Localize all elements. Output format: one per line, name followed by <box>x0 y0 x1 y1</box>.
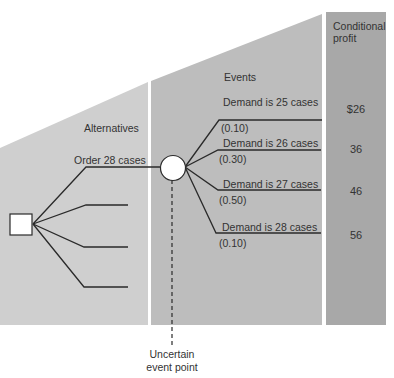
conditional-profit-header-line1: Conditional <box>333 20 386 32</box>
alternatives-header: Alternatives <box>84 122 139 134</box>
annotation-line1: Uncertain <box>141 348 203 361</box>
profit-value: 36 <box>326 143 386 155</box>
event-probability: (0.30) <box>219 153 246 165</box>
event-label: Demand is 27 cases <box>223 178 318 190</box>
event-node-circle[interactable] <box>161 156 186 181</box>
event-probability: (0.10) <box>219 237 246 249</box>
annotation-line2: event point <box>141 361 203 374</box>
event-label: Demand is 26 cases <box>223 137 318 149</box>
profit-value: 46 <box>326 185 386 197</box>
event-label: Demand is 25 cases <box>223 96 318 108</box>
conditional-profit-header: Conditional profit <box>333 20 386 44</box>
events-header: Events <box>224 71 256 83</box>
event-label: Demand is 28 cases <box>222 221 317 233</box>
alternative-label-order-28: Order 28 cases <box>74 154 146 166</box>
event-probability: (0.50) <box>219 194 246 206</box>
conditional-profit-header-line2: profit <box>333 32 386 44</box>
event-probability: (0.10) <box>221 122 248 134</box>
uncertain-event-point-annotation: Uncertain event point <box>141 348 203 374</box>
decision-node-square[interactable] <box>10 214 32 235</box>
alternatives-panel <box>0 82 148 325</box>
profit-value: 56 <box>326 229 386 241</box>
profit-value: $26 <box>326 103 386 115</box>
conditional-profit-column <box>326 12 386 325</box>
